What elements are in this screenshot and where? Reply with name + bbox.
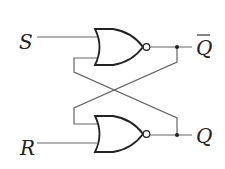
nor-gate-top [95,29,143,65]
label-s: S [19,30,33,54]
nor-gate-bottom [95,116,143,152]
label-r: R [19,136,35,160]
inverter-bubble-bottom [143,131,150,138]
label-q-bar: Q [196,36,212,60]
junction-dot-top [175,45,179,49]
junction-dot-bottom [175,133,179,137]
sr-latch-diagram: S R Q Q [0,0,225,169]
inverter-bubble-top [143,44,150,51]
label-q: Q [196,124,212,148]
